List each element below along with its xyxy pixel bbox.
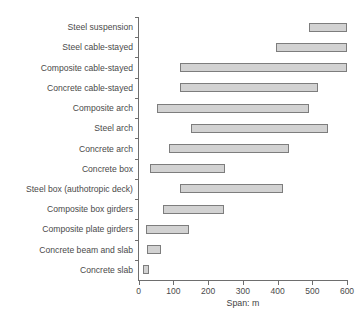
- category-label: Concrete beam and slab: [39, 245, 133, 255]
- y-axis-tick: [135, 57, 139, 58]
- x-axis-tick: [139, 281, 140, 285]
- x-axis-tick-label: 500: [297, 286, 327, 296]
- category-label: Composite plate girders: [42, 224, 133, 234]
- x-axis-tick-label: 100: [158, 286, 188, 296]
- y-axis-tick: [135, 37, 139, 38]
- range-bar: [147, 245, 161, 254]
- category-label: Concrete slab: [80, 265, 133, 275]
- range-bar: [157, 104, 310, 113]
- category-label: Concrete arch: [79, 144, 133, 154]
- y-axis-tick: [135, 179, 139, 180]
- x-axis-tick: [208, 281, 209, 285]
- range-bar: [180, 83, 318, 92]
- range-bar: [180, 63, 347, 72]
- range-bar: [276, 43, 347, 52]
- range-bar: [143, 265, 150, 274]
- range-bar: [146, 225, 189, 234]
- range-bar: [191, 124, 328, 133]
- y-axis-tick: [135, 118, 139, 119]
- range-bar: [180, 184, 283, 193]
- category-label: Steel arch: [94, 123, 133, 133]
- category-label: Steel box (authotropic deck): [26, 184, 133, 194]
- x-axis-tick: [243, 281, 244, 285]
- y-axis-tick: [135, 17, 139, 18]
- y-axis-tick: [135, 78, 139, 79]
- x-axis-tick-label: 200: [193, 286, 223, 296]
- y-axis-tick: [135, 219, 139, 220]
- x-axis-tick: [312, 281, 313, 285]
- range-bar: [169, 144, 289, 153]
- category-axis-labels: Steel suspensionSteel cable-stayedCompos…: [0, 17, 133, 280]
- category-label: Composite cable-stayed: [41, 63, 133, 73]
- category-label: Steel suspension: [68, 22, 133, 32]
- x-axis-tick: [278, 281, 279, 285]
- y-axis-tick: [135, 138, 139, 139]
- plot-area: [139, 17, 347, 280]
- category-label: Concrete cable-stayed: [47, 83, 133, 93]
- range-bar: [150, 164, 226, 173]
- category-label: Concrete box: [82, 164, 133, 174]
- y-axis-tick: [135, 260, 139, 261]
- x-axis-tick-label: 0: [124, 286, 154, 296]
- range-bar: [163, 205, 224, 214]
- category-label: Composite arch: [73, 103, 133, 113]
- x-axis-tick-label: 400: [263, 286, 293, 296]
- x-axis-tick-label: 600: [332, 286, 362, 296]
- range-bar: [309, 23, 347, 32]
- x-axis-title: Span: m: [138, 298, 348, 309]
- category-label: Steel cable-stayed: [62, 42, 133, 52]
- x-axis-tick-label: 300: [228, 286, 258, 296]
- y-axis-tick: [135, 98, 139, 99]
- y-axis-tick: [135, 240, 139, 241]
- span-range-chart: Steel suspensionSteel cable-stayedCompos…: [0, 0, 364, 320]
- category-label: Composite box girders: [47, 204, 133, 214]
- x-axis-tick: [347, 281, 348, 285]
- y-axis-tick: [135, 159, 139, 160]
- y-axis-tick: [135, 199, 139, 200]
- x-axis-tick: [173, 281, 174, 285]
